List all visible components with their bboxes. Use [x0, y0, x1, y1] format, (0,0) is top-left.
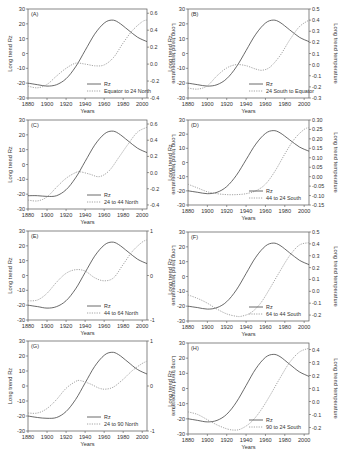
panel-label: (F) [191, 234, 198, 240]
plot-frame [188, 343, 309, 434]
x-tick-label: 1920 [220, 208, 232, 214]
x-tick-label: 1960 [98, 323, 110, 329]
y-tick-label: 10 [179, 259, 185, 265]
y-tick-label: -30 [17, 428, 25, 434]
y-tick-label: 30 [19, 117, 25, 123]
y-tick-label: -10 [17, 287, 25, 293]
y2-tick-label: 0.3 [312, 360, 320, 366]
x-tick-label: 1920 [60, 434, 72, 440]
y2-tick-label: 0.4 [312, 347, 320, 353]
y2-tick-label: 0.15 [312, 145, 323, 151]
y-tick-label: 30 [179, 117, 185, 123]
y-tick-label: 20 [19, 243, 25, 249]
legend-rz-label: Rz [266, 81, 273, 87]
panel-label: (D) [191, 122, 199, 128]
y2-tick-label: 0.00 [312, 174, 323, 180]
y2-tick-label: 0.6 [150, 10, 158, 16]
legend-temp-label: 44 to 64 North [104, 310, 138, 316]
y2-axis-label: Long trend temperature [333, 132, 338, 193]
y-axis-label: Long trend Rz [7, 368, 13, 405]
temperature-line [188, 348, 309, 430]
y-tick-label: 30 [19, 228, 25, 234]
y2-tick-label: 0.5 [312, 229, 320, 235]
x-tick-label: 1940 [79, 434, 91, 440]
x-tick-label: 1980 [279, 437, 291, 443]
x-tick-label: 1920 [220, 101, 232, 107]
x-tick-label: 1960 [259, 324, 271, 330]
x-axis-label: Years [241, 444, 255, 450]
figure: 1880190019201940196019802000Years-30-20-… [0, 0, 338, 458]
y2-tick-label: 0 [150, 383, 153, 389]
x-tick-label: 2000 [298, 101, 310, 107]
y-tick-label: -30 [177, 202, 185, 208]
y2-tick-label: 0.0 [312, 399, 320, 405]
y2-tick-label: 0.0 [150, 170, 158, 176]
x-tick-label: 1920 [60, 323, 72, 329]
y2-tick-label: -1 [150, 317, 155, 323]
y-tick-label: -20 [177, 303, 185, 309]
x-tick-label: 1900 [41, 101, 53, 107]
plot-frame [188, 9, 309, 98]
y2-tick-label: -0.1 [312, 73, 321, 79]
x-tick-label: 1980 [117, 434, 129, 440]
y2-tick-label: -1 [150, 428, 155, 434]
y-tick-label: -20 [17, 80, 25, 86]
y-tick-label: -30 [17, 206, 25, 212]
y2-tick-label: 0.05 [312, 164, 323, 170]
y-tick-label: -10 [177, 174, 185, 180]
x-tick-label: 2000 [136, 323, 148, 329]
y2-tick-label: 0.20 [312, 136, 323, 142]
panel-label: (A) [31, 11, 39, 17]
y-tick-label: 0 [182, 386, 185, 392]
y2-tick-label: 0.1 [312, 276, 320, 282]
y2-tick-label: 0.4 [312, 241, 320, 247]
y2-tick-label: 0.2 [312, 39, 320, 45]
panel-b: 1880190019201940196019802000Years-30-20-… [167, 6, 338, 114]
y-tick-label: 30 [179, 6, 185, 12]
legend-temp-label: 24 to 44 North [104, 199, 138, 205]
y-tick-label: 0 [22, 383, 25, 389]
y-tick-label: 20 [179, 244, 185, 250]
y2-tick-label: -0.1 [312, 300, 321, 306]
y2-tick-label: 0.2 [312, 373, 320, 379]
panel-f: 1880190019201940196019802000Years-30-20-… [167, 229, 338, 337]
rz-line [188, 354, 309, 422]
legend-temp-label: 24 to 90 North [104, 421, 138, 427]
y2-axis-label: Long trend temperature [333, 23, 338, 84]
y-tick-label: 0 [22, 162, 25, 168]
y-tick-label: 30 [19, 6, 25, 12]
x-tick-label: 1960 [98, 101, 110, 107]
x-axis-label: Years [80, 330, 94, 336]
y2-tick-label: 0.5 [312, 6, 320, 12]
x-tick-label: 1980 [279, 324, 291, 330]
x-tick-label: 1880 [22, 101, 34, 107]
x-axis-label: Years [80, 441, 94, 447]
legend-rz-label: Rz [266, 417, 273, 423]
y-tick-label: 10 [19, 258, 25, 264]
y-tick-label: 20 [19, 21, 25, 27]
y2-tick-label: -0.2 [150, 78, 159, 84]
y-tick-label: 20 [19, 132, 25, 138]
rz-line [188, 131, 309, 194]
y2-tick-label: -0.05 [312, 183, 324, 189]
x-tick-label: 1900 [201, 324, 213, 330]
y2-tick-label: 0 [150, 273, 153, 279]
x-tick-label: 1980 [117, 323, 129, 329]
y-tick-label: -10 [177, 401, 185, 407]
x-tick-label: 2000 [136, 212, 148, 218]
panel-c: 1880190019201940196019802000Years-30-20-… [7, 117, 177, 225]
y2-tick-label: 0.4 [150, 137, 158, 143]
temperature-line [28, 361, 147, 413]
x-tick-label: 1880 [182, 101, 194, 107]
x-tick-label: 1900 [201, 208, 213, 214]
y2-tick-label: 0.4 [312, 17, 320, 23]
y2-tick-label: 0.2 [150, 44, 158, 50]
x-tick-label: 1920 [60, 101, 72, 107]
y-axis-label: Long trend Rz [167, 370, 173, 407]
rz-line [28, 352, 147, 418]
y2-tick-label: -0.10 [312, 193, 324, 199]
y2-tick-label: 1 [150, 228, 153, 234]
y2-tick-label: -0.1 [312, 412, 321, 418]
y-tick-label: -10 [17, 398, 25, 404]
x-tick-label: 1940 [79, 101, 91, 107]
